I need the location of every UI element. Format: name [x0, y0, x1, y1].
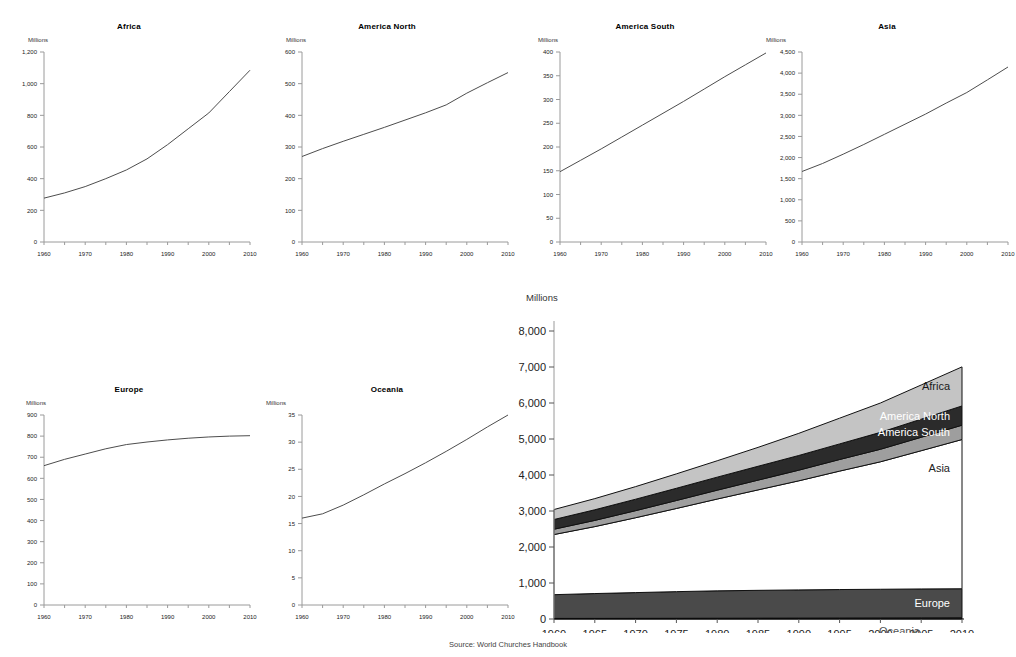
series-line-oceania [302, 415, 508, 518]
series-line-africa [44, 70, 250, 198]
y-tick-label: 400 [27, 518, 38, 524]
band-label-africa: Africa [922, 380, 951, 392]
main-x-tick-label: 1990 [787, 628, 811, 633]
series-line-asia [802, 67, 1008, 171]
x-tick-label: 2000 [202, 251, 216, 257]
x-tick-label: 1990 [161, 614, 175, 620]
panel-stacked-total: Millions 01,0002,0003,0004,0005,0006,000… [516, 292, 1016, 637]
y-tick-label: 4,500 [780, 49, 796, 55]
y-tick-label: 0 [34, 602, 38, 608]
y-tick-label: 0 [292, 602, 296, 608]
band-label-america-north: America North [880, 410, 950, 422]
y-tick-label: 10 [288, 548, 295, 554]
panel-america-north: America North Millions 01002003004005006… [258, 22, 516, 267]
x-tick-label: 1990 [419, 251, 433, 257]
band-label-europe: Europe [915, 597, 950, 609]
chart-title-america-north: America North [258, 22, 516, 31]
y-tick-label: 1,000 [22, 81, 38, 87]
x-tick-label: 2010 [243, 251, 257, 257]
main-y-tick-label: 4,000 [518, 469, 546, 481]
main-x-tick-label: 1965 [583, 628, 607, 633]
x-tick-label: 2000 [202, 614, 216, 620]
y-tick-label: 500 [785, 218, 796, 224]
x-tick-label: 1960 [37, 251, 51, 257]
y-tick-label: 100 [543, 192, 554, 198]
y-tick-label: 200 [543, 144, 554, 150]
series-line-europe [44, 436, 250, 466]
y-tick-label: 3,500 [780, 91, 796, 97]
panel-oceania: Oceania Millions 05101520253035196019701… [258, 385, 516, 630]
y-tick-label: 100 [27, 581, 38, 587]
x-tick-label: 1970 [337, 251, 351, 257]
x-tick-label: 2010 [501, 251, 515, 257]
panel-america-south: America South Millions 05010015020025030… [516, 22, 774, 267]
x-tick-label: 2000 [960, 251, 974, 257]
x-tick-label: 1970 [79, 614, 93, 620]
main-x-tick-label: 1975 [664, 628, 688, 633]
x-tick-label: 1960 [553, 251, 567, 257]
x-tick-label: 1980 [636, 251, 650, 257]
line-chart-oceania: 05101520253035196019701980199020002010 [258, 407, 516, 629]
y-tick-label: 200 [27, 560, 38, 566]
y-tick-label: 300 [285, 144, 296, 150]
main-y-tick-label: 7,000 [518, 361, 546, 373]
y-tick-label: 50 [546, 215, 553, 221]
y-tick-label: 4,000 [780, 70, 796, 76]
y-tick-label: 800 [27, 113, 38, 119]
y-tick-label: 600 [27, 144, 38, 150]
y-tick-label: 600 [285, 49, 296, 55]
band-label-oceania: Oceania [879, 625, 921, 633]
main-x-tick-label: 1960 [542, 628, 566, 633]
y-tick-label: 700 [27, 454, 38, 460]
y-tick-label: 5 [292, 575, 296, 581]
line-chart-europe: 0100200300400500600700800900196019701980… [0, 407, 258, 629]
y-tick-label: 200 [27, 208, 38, 214]
x-tick-label: 1970 [837, 251, 851, 257]
chart-title-europe: Europe [0, 385, 258, 394]
band-label-asia: Asia [929, 462, 951, 474]
main-y-tick-label: 6,000 [518, 397, 546, 409]
x-tick-label: 1980 [878, 251, 892, 257]
y-tick-label: 200 [285, 176, 296, 182]
main-y-tick-label: 8,000 [518, 325, 546, 337]
x-tick-label: 1960 [37, 614, 51, 620]
y-tick-label: 20 [288, 494, 295, 500]
x-tick-label: 1960 [295, 251, 309, 257]
x-tick-label: 1970 [595, 251, 609, 257]
x-tick-label: 2000 [460, 251, 474, 257]
source-note: Source: World Churches Handbook [0, 640, 1016, 649]
y-tick-label: 2,000 [780, 155, 796, 161]
y-tick-label: 400 [543, 49, 554, 55]
y-tick-label: 0 [550, 239, 554, 245]
y-tick-label: 35 [288, 412, 295, 418]
main-y-tick-label: 5,000 [518, 433, 546, 445]
main-x-tick-label: 1995 [827, 628, 851, 633]
y-tick-label: 500 [27, 497, 38, 503]
x-tick-label: 1980 [120, 251, 134, 257]
y-tick-label: 800 [27, 433, 38, 439]
chart-title-america-south: America South [516, 22, 774, 31]
units-label-america-south: Millions [538, 37, 774, 43]
y-tick-label: 250 [543, 120, 554, 126]
y-tick-label: 0 [792, 239, 796, 245]
main-y-tick-label: 2,000 [518, 541, 546, 553]
x-tick-label: 1990 [677, 251, 691, 257]
y-tick-label: 2,500 [780, 134, 796, 140]
main-x-tick-label: 1985 [746, 628, 770, 633]
main-y-tick-label: 0 [540, 613, 546, 625]
units-label-asia: Millions [766, 37, 1016, 43]
units-label-europe: Millions [26, 400, 258, 406]
y-tick-label: 1,200 [22, 49, 38, 55]
chart-title-asia: Asia [758, 22, 1016, 31]
chart-title-oceania: Oceania [258, 385, 516, 394]
band-label-america-south: America South [878, 426, 950, 438]
y-tick-label: 0 [292, 239, 296, 245]
x-tick-label: 1990 [419, 614, 433, 620]
y-tick-label: 300 [543, 97, 554, 103]
main-x-tick-label: 1970 [623, 628, 647, 633]
y-tick-label: 300 [27, 539, 38, 545]
panel-europe: Europe Millions 010020030040050060070080… [0, 385, 258, 630]
units-label-oceania: Millions [266, 400, 516, 406]
y-tick-label: 400 [285, 113, 296, 119]
series-line-america-south [560, 53, 766, 172]
